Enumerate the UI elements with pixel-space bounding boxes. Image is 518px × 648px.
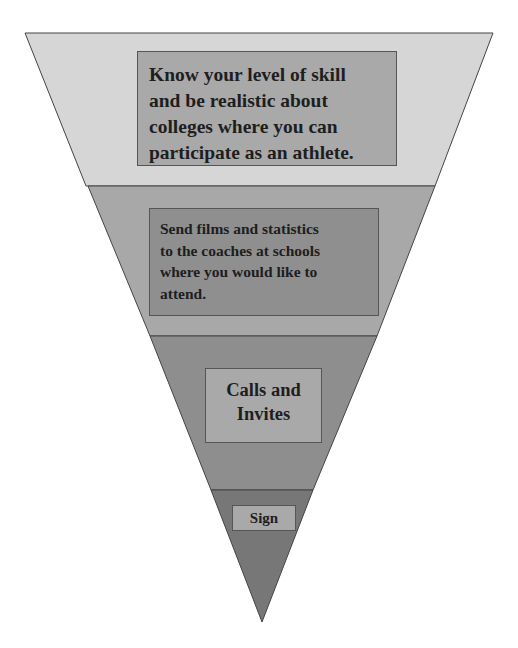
level-1-label-box: Know your level of skill and be realisti… — [137, 51, 397, 166]
level-2-line: to the coaches at schools — [160, 240, 378, 262]
level-4-line: Sign — [233, 506, 295, 530]
level-2-line: where you would like to — [160, 261, 378, 283]
level-4-label-box: Sign — [232, 505, 296, 531]
level-1-line: participate as an athlete. — [149, 140, 396, 166]
level-2-label-box: Send films and statistics to the coaches… — [149, 208, 379, 316]
level-2-line: Send films and statistics — [160, 218, 378, 240]
level-2-line: attend. — [160, 283, 378, 305]
level-1-line: Know your level of skill — [149, 62, 396, 88]
level-1-line: colleges where you can — [149, 114, 396, 140]
level-3-line: Calls and — [206, 378, 321, 402]
level-3-label-box: Calls and Invites — [205, 368, 322, 443]
level-3-line: Invites — [206, 402, 321, 426]
level-1-line: and be realistic about — [149, 88, 396, 114]
